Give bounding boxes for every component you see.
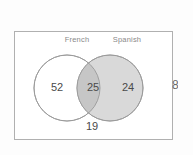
french-only-count: 52: [46, 81, 68, 93]
clipped-edge-text: 8: [172, 78, 178, 92]
venn-diagram-figure: French Spanish 52 25 24 19 8: [0, 0, 193, 155]
intersection-count: 25: [82, 81, 104, 93]
spanish-only-count: 24: [117, 81, 139, 93]
outside-count: 19: [81, 120, 103, 132]
spanish-set-label: Spanish: [106, 35, 148, 44]
french-set-label: French: [56, 35, 98, 44]
